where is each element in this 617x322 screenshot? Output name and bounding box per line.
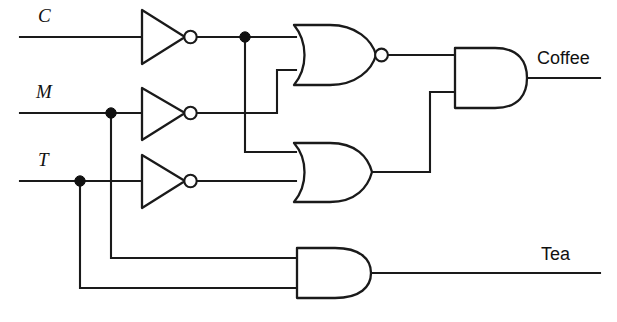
junction-dot-inverter-c-output (240, 32, 250, 42)
inverter-t (142, 155, 197, 208)
inverter-m-bubble-icon (184, 107, 196, 119)
or-gate-body (294, 143, 372, 202)
input-label-m: M (35, 81, 53, 102)
circuit-canvas: C M T Coffee Tea (0, 0, 617, 322)
and-gate-coffee-body (455, 48, 527, 108)
nor-gate-bubble-icon (375, 49, 388, 62)
junction-dot-m-input (106, 108, 116, 118)
wire-or-output (372, 92, 455, 172)
and-gate-tea-body (297, 248, 371, 298)
wire-cinv-to-or (245, 37, 296, 152)
output-label-tea: Tea (541, 244, 571, 264)
inverter-c (142, 10, 197, 64)
junction-dot-t-input (75, 176, 85, 186)
logic-circuit-diagram: C M T Coffee Tea (0, 0, 617, 322)
inverter-m (142, 88, 197, 140)
inverter-t-bubble-icon (184, 175, 196, 187)
and-gate-tea (297, 248, 371, 298)
input-label-t: T (38, 149, 50, 170)
output-label-coffee: Coffee (537, 48, 590, 68)
input-label-c: C (38, 5, 51, 26)
nor-gate (294, 25, 388, 85)
inverter-c-triangle (142, 10, 185, 64)
wire-m-to-and-tea (111, 113, 297, 258)
inverter-c-bubble-icon (184, 31, 196, 43)
or-gate (294, 143, 372, 202)
wire-t-to-and-tea (80, 181, 297, 288)
inverter-m-triangle (142, 88, 185, 140)
inverter-t-triangle (142, 155, 185, 208)
nor-gate-body (294, 25, 376, 85)
and-gate-coffee (455, 48, 527, 108)
